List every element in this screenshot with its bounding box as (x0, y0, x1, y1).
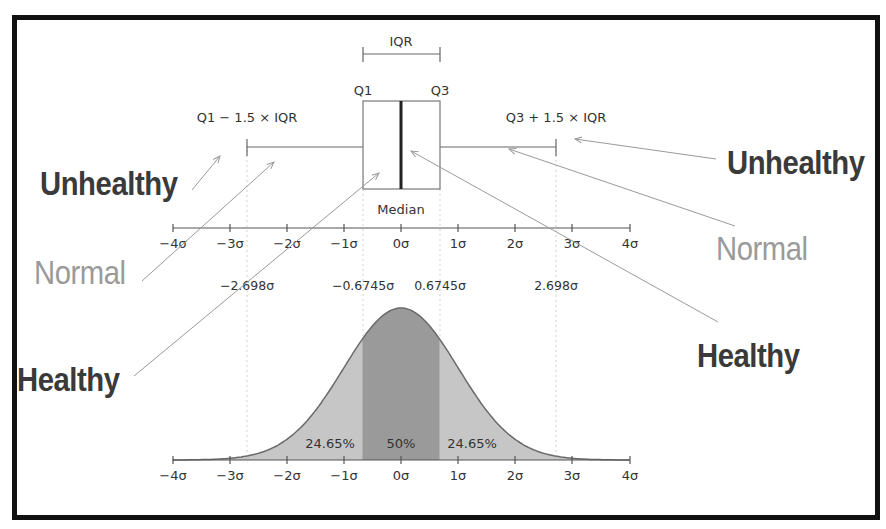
svg-text:3σ: 3σ (564, 468, 581, 483)
q3-label: Q3 (431, 83, 450, 98)
svg-text:−4σ: −4σ (159, 236, 186, 251)
right-unhealthy-label: Unhealthy (727, 143, 864, 182)
svg-text:−2.698σ: −2.698σ (220, 278, 274, 293)
distribution-percentages: 24.65% 50% 24.65% (305, 436, 497, 451)
svg-text:−4σ: −4σ (159, 468, 186, 483)
svg-text:2σ: 2σ (507, 236, 524, 251)
iqr-label: IQR (389, 34, 412, 49)
svg-text:−1σ: −1σ (330, 236, 357, 251)
svg-text:−3σ: −3σ (216, 236, 243, 251)
right-normal-label: Normal (716, 229, 808, 268)
svg-text:−3σ: −3σ (216, 468, 243, 483)
svg-text:4σ: 4σ (622, 236, 639, 251)
right-percentage: 24.65% (447, 436, 497, 451)
svg-text:4σ: 4σ (622, 468, 639, 483)
svg-text:−2σ: −2σ (273, 468, 300, 483)
svg-text:0σ: 0σ (393, 236, 410, 251)
svg-text:2.698σ: 2.698σ (534, 278, 578, 293)
left-healthy-label: Healthy (17, 360, 120, 399)
arrow-left-unhealthy (192, 156, 220, 190)
left-unhealthy-label: Unhealthy (40, 164, 177, 203)
left-percentage: 24.65% (305, 436, 355, 451)
svg-text:1σ: 1σ (450, 468, 467, 483)
median-label: Median (377, 202, 424, 217)
svg-text:−1σ: −1σ (330, 468, 357, 483)
svg-text:1σ: 1σ (450, 236, 467, 251)
iqr-bracket (363, 47, 440, 62)
right-healthy-label: Healthy (697, 336, 800, 375)
arrow-left-healthy (134, 173, 379, 376)
lower-whisker-label: Q1 − 1.5 × IQR (197, 110, 298, 125)
bottom-axis-labels: −4σ −3σ −2σ −1σ 0σ 1σ 2σ 3σ 4σ (159, 468, 638, 483)
reference-values: −2.698σ −0.6745σ 0.6745σ 2.698σ (220, 278, 578, 293)
arrow-right-unhealthy (575, 139, 716, 159)
upper-whisker-label: Q3 + 1.5 × IQR (506, 110, 607, 125)
svg-text:0σ: 0σ (393, 468, 410, 483)
center-percentage: 50% (387, 436, 416, 451)
left-normal-label: Normal (34, 253, 126, 292)
svg-text:2σ: 2σ (507, 468, 524, 483)
svg-text:0.6745σ: 0.6745σ (414, 278, 466, 293)
top-axis-labels: −4σ −3σ −2σ −1σ 0σ 1σ 2σ 3σ 4σ (159, 236, 638, 251)
arrow-right-normal (509, 149, 735, 226)
svg-text:−0.6745σ: −0.6745σ (332, 278, 394, 293)
q1-label: Q1 (354, 83, 373, 98)
top-axis (173, 224, 630, 232)
